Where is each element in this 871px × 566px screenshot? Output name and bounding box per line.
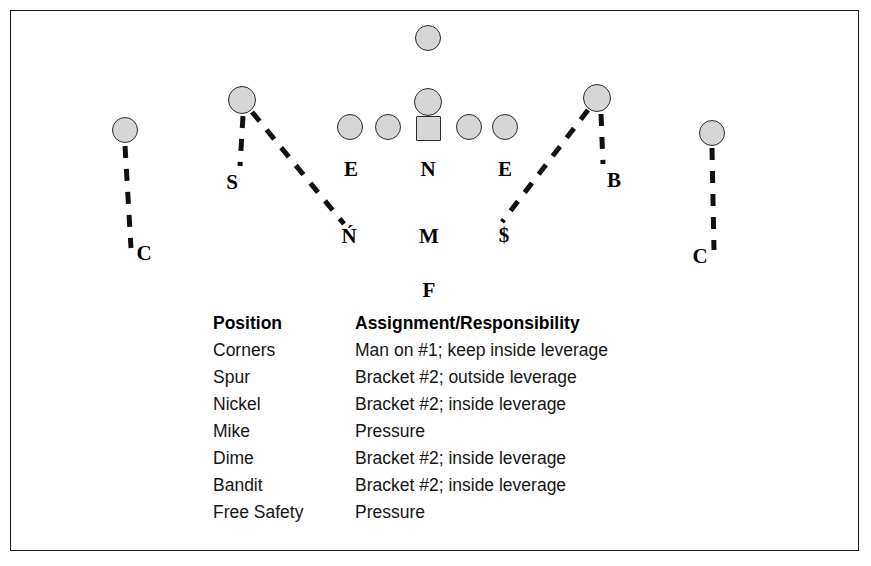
cell-assignment: Bracket #2; inside leverage [355, 445, 643, 472]
bandit-drop-line [601, 114, 603, 164]
right-corner-token [699, 120, 725, 146]
cell-position: Free Safety [213, 499, 355, 526]
cell-position: Dime [213, 445, 355, 472]
cell-assignment: Bracket #2; outside leverage [355, 364, 643, 391]
label-nickel: Ń [341, 226, 356, 247]
nose-deep-token [414, 88, 442, 116]
cell-position: Mike [213, 418, 355, 445]
right-corner-drop-line [712, 148, 714, 250]
spur-drop-line [240, 116, 243, 166]
assignment-header-row: Position Assignment/Responsibility [213, 310, 643, 337]
assignment-table: Position Assignment/Responsibility Corne… [213, 310, 643, 526]
header-assignment: Assignment/Responsibility [355, 310, 643, 337]
label-right-end: E [498, 159, 512, 180]
table-row: SpurBracket #2; outside leverage [213, 364, 643, 391]
assignment-table-body: CornersMan on #1; keep inside leverageSp… [213, 337, 643, 526]
label-left-end: E [344, 159, 358, 180]
label-dime: $ [499, 225, 510, 246]
bandit-token [583, 84, 611, 112]
table-row: NickelBracket #2; inside leverage [213, 391, 643, 418]
spur-to-nickel-line [252, 112, 344, 224]
cell-assignment: Pressure [355, 418, 643, 445]
cell-position: Corners [213, 337, 355, 364]
cell-assignment: Bracket #2; inside leverage [355, 391, 643, 418]
table-row: MikePressure [213, 418, 643, 445]
label-bandit: B [607, 170, 621, 191]
label-right-corner: C [692, 246, 707, 267]
diagram-page: SENEBŃM$FCC Position Assignment/Responsi… [0, 0, 871, 566]
deep-safety-token [415, 25, 441, 51]
label-nose: N [420, 159, 435, 180]
left-tackle-token [375, 114, 401, 140]
cell-position: Nickel [213, 391, 355, 418]
right-end-token [492, 114, 518, 140]
left-end-token [337, 114, 363, 140]
table-row: CornersMan on #1; keep inside leverage [213, 337, 643, 364]
right-tackle-token [456, 114, 482, 140]
assignment-table-head: Position Assignment/Responsibility [213, 310, 643, 337]
spur-token [228, 86, 256, 114]
left-corner-drop-line [125, 146, 131, 248]
center-ball-token [416, 116, 441, 141]
cell-position: Spur [213, 364, 355, 391]
cell-position: Bandit [213, 472, 355, 499]
assignment-table-element: Position Assignment/Responsibility Corne… [213, 310, 643, 526]
cell-assignment: Pressure [355, 499, 643, 526]
label-free-safety: F [423, 280, 436, 301]
cell-assignment: Man on #1; keep inside leverage [355, 337, 643, 364]
table-row: BanditBracket #2; inside leverage [213, 472, 643, 499]
cell-assignment: Bracket #2; inside leverage [355, 472, 643, 499]
header-position: Position [213, 310, 355, 337]
label-left-corner: C [136, 243, 151, 264]
left-corner-token [112, 117, 138, 143]
label-spur: S [226, 172, 238, 193]
table-row: DimeBracket #2; inside leverage [213, 445, 643, 472]
table-row: Free SafetyPressure [213, 499, 643, 526]
label-mike: M [419, 226, 439, 247]
